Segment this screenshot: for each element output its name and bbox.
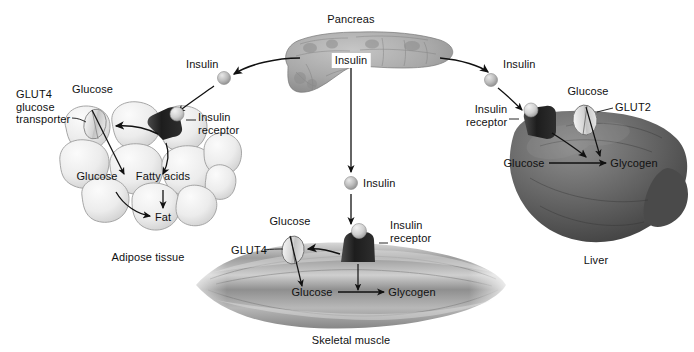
insulin-label-center: Insulin (363, 177, 396, 190)
liver-glycogen-label: Glycogen (610, 157, 657, 170)
adipose-fatty-acids-label: Fatty acids (136, 170, 190, 183)
adipose-glucose-label: Glucose (76, 170, 117, 183)
insulin-particle-right (485, 74, 498, 87)
insulin-particle-center (345, 177, 358, 190)
muscle-glucose-top-label: Glucose (269, 215, 310, 228)
liver-label: Liver (584, 254, 608, 267)
liver-insulin-receptor (524, 103, 556, 139)
pancreas-label: Pancreas (327, 13, 374, 26)
muscle-glucose-label: Glucose (291, 286, 332, 299)
adipose-tissue-label: Adipose tissue (112, 251, 185, 264)
muscle-glut4-label: GLUT4 (231, 244, 267, 257)
adipose-fat-label: Fat (155, 211, 171, 224)
insulin-label-left: Insulin (186, 58, 219, 71)
adipose-glut4-transporter-label: GLUT4 glucose transporter (16, 88, 70, 126)
adipose-insulin-receptor-label: Insulin receptor (198, 111, 239, 136)
insulin-signaling-diagram: Pancreas Insulin Insulin Insulin Insulin… (0, 0, 694, 352)
leader-glut2 (597, 108, 613, 112)
arrow-left-insulin-to-receptor (178, 86, 214, 112)
adipose-glucose-top-label: Glucose (72, 83, 113, 96)
muscle-insulin-receptor-label: Insulin receptor (390, 219, 431, 244)
liver-glut2-label: GLUT2 (615, 101, 651, 114)
pancreas-insulin-label: Insulin (332, 53, 371, 68)
liver-glucose-top-label: Glucose (567, 85, 608, 98)
skeletal-muscle-label: Skeletal muscle (312, 334, 391, 347)
muscle-glycogen-label: Glycogen (388, 286, 435, 299)
muscle-insulin-receptor (341, 224, 375, 263)
liver-insulin-receptor-label: Insulin receptor (466, 103, 507, 128)
insulin-particle-left (218, 72, 231, 85)
liver-glucose-label: Glucose (503, 157, 544, 170)
insulin-label-right: Insulin (503, 58, 536, 71)
